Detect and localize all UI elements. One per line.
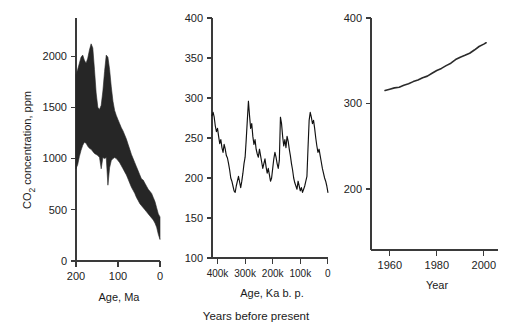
right-xtick-1960: 1960 bbox=[378, 259, 402, 271]
middle-y-ticks bbox=[207, 18, 213, 258]
middle-ytick-300: 300 bbox=[185, 92, 203, 104]
right-ytick-300: 300 bbox=[344, 97, 362, 109]
middle-x-tick-labels: 400k 300k 200k 100k 0 bbox=[207, 268, 331, 279]
right-x-tick-labels: 1960 1980 2000 bbox=[378, 259, 496, 271]
left-y-ticks bbox=[71, 56, 77, 261]
panel-right-modern: 400 300 200 1960 1980 2000 Year bbox=[344, 12, 498, 291]
right-x-ticks bbox=[390, 250, 484, 256]
ylabel-rest: concentration, ppm bbox=[21, 91, 33, 188]
right-xtick-1980: 1980 bbox=[425, 259, 449, 271]
svg-text:CO2 concentration, ppm: CO2 concentration, ppm bbox=[21, 91, 37, 209]
middle-ytick-400: 400 bbox=[185, 12, 203, 24]
right-y-ticks bbox=[366, 18, 372, 189]
right-x-axis-title: Year bbox=[426, 279, 449, 291]
left-xtick-100: 100 bbox=[109, 270, 127, 282]
left-xtick-200: 200 bbox=[67, 270, 85, 282]
middle-ytick-250: 250 bbox=[185, 132, 203, 144]
right-y-tick-labels: 400 300 200 bbox=[344, 12, 362, 195]
panel-left-phanerozoic: 0 500 1000 1500 2000 200 100 0 Age, Ma bbox=[43, 18, 164, 303]
middle-xtick-300k: 300k bbox=[234, 268, 257, 279]
left-ytick-2000: 2000 bbox=[43, 50, 67, 62]
middle-xtick-100k: 100k bbox=[289, 268, 312, 279]
middle-ytick-100: 100 bbox=[185, 252, 203, 264]
left-xtick-0: 0 bbox=[157, 270, 163, 282]
middle-ytick-150: 150 bbox=[185, 212, 203, 224]
right-xtick-2000: 2000 bbox=[472, 259, 496, 271]
right-keeling-curve-line bbox=[385, 43, 486, 91]
left-x-tick-labels: 200 100 0 bbox=[67, 270, 163, 282]
panel-middle-icecore: 100 150 200 250 300 350 400 400k 300k 2 bbox=[185, 12, 331, 299]
left-x-axis-title: Age, Ma bbox=[99, 291, 141, 303]
left-co2-uncertainty-band bbox=[76, 44, 160, 240]
middle-ytick-200: 200 bbox=[185, 172, 203, 184]
middle-x-axis-title: Age, Ka b. p. bbox=[240, 287, 304, 299]
left-ytick-1500: 1500 bbox=[43, 101, 67, 113]
left-x-ticks bbox=[76, 261, 160, 267]
left-y-tick-labels: 0 500 1000 1500 2000 bbox=[43, 50, 67, 267]
middle-xtick-400k: 400k bbox=[207, 268, 230, 279]
co2-multi-panel-figure: CO2 concentration, ppm 0 500 100 bbox=[0, 0, 513, 330]
middle-x-ticks bbox=[218, 258, 328, 264]
middle-y-tick-labels: 100 150 200 250 300 350 400 bbox=[185, 12, 203, 264]
middle-xtick-200k: 200k bbox=[262, 268, 285, 279]
middle-ytick-350: 350 bbox=[185, 52, 203, 64]
middle-xtick-0: 0 bbox=[325, 268, 331, 279]
right-ytick-200: 200 bbox=[344, 183, 362, 195]
left-ytick-500: 500 bbox=[49, 204, 67, 216]
left-ytick-0: 0 bbox=[61, 255, 67, 267]
middle-icecore-co2-line bbox=[212, 101, 328, 192]
figure-svg: CO2 concentration, ppm 0 500 100 bbox=[0, 0, 513, 330]
figure-caption: Years before present bbox=[203, 310, 310, 322]
left-ytick-1000: 1000 bbox=[43, 152, 67, 164]
shared-y-axis-title: CO2 concentration, ppm bbox=[21, 91, 37, 209]
right-ytick-400: 400 bbox=[344, 12, 362, 24]
ylabel-main: CO bbox=[21, 192, 33, 209]
